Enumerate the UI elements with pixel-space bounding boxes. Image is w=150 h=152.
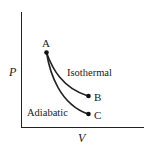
isothermal-label: Isothermal xyxy=(67,67,112,78)
point-a-label: A xyxy=(42,37,50,49)
pv-diagram: P V A B C Isothermal Adiabatic xyxy=(0,0,150,152)
point-b-marker xyxy=(86,94,91,99)
y-axis-label: P xyxy=(8,65,17,79)
point-a-marker xyxy=(44,50,49,55)
adiabatic-curve xyxy=(47,53,89,115)
point-b-label: B xyxy=(94,91,101,103)
adiabatic-label: Adiabatic xyxy=(27,107,68,118)
x-axis-label: V xyxy=(78,131,87,145)
point-c-marker xyxy=(86,112,91,117)
point-c-label: C xyxy=(94,109,101,121)
